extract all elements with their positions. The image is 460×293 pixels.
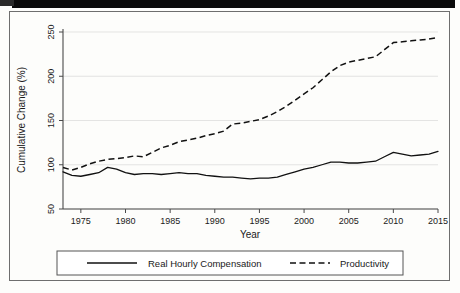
x-tick-label-2010: 2010 [383, 216, 403, 226]
x-tick-label-1995: 1995 [249, 216, 269, 226]
legend-label-productivity: Productivity [340, 258, 389, 269]
plot-area-wrapper: 50100150200250 1975198019851990199520002… [0, 0, 460, 293]
x-tick-label-1975: 1975 [71, 216, 91, 226]
y-axis-ticks-group: 50100150200250 [46, 24, 63, 214]
y-tick-label-50: 50 [46, 204, 56, 214]
gridlines-group [63, 32, 438, 209]
line-chart: 50100150200250 1975198019851990199520002… [0, 0, 460, 293]
y-tick-label-200: 200 [46, 69, 56, 84]
series-line-productivity [63, 37, 438, 170]
y-tick-label-150: 150 [46, 113, 56, 128]
y-tick-label-100: 100 [46, 157, 56, 172]
x-tick-label-1980: 1980 [115, 216, 135, 226]
x-tick-label-1985: 1985 [160, 216, 180, 226]
x-tick-label-1990: 1990 [205, 216, 225, 226]
legend-label-real-hourly-compensation: Real Hourly Compensation [148, 258, 262, 269]
x-axis-title: Year [240, 229, 261, 240]
y-axis-title: Cumulative Change (%) [16, 67, 27, 173]
figure-container: 50100150200250 1975198019851990199520002… [0, 0, 460, 293]
x-tick-label-2000: 2000 [294, 216, 314, 226]
y-tick-label-250: 250 [46, 24, 56, 39]
legend: Real Hourly Compensation Productivity [57, 251, 403, 275]
series-line-real-hourly-compensation [63, 151, 438, 178]
x-tick-label-2005: 2005 [339, 216, 359, 226]
x-axis-ticks-group: 197519801985199019952000200520102015 [71, 209, 448, 226]
x-tick-label-2015: 2015 [428, 216, 448, 226]
